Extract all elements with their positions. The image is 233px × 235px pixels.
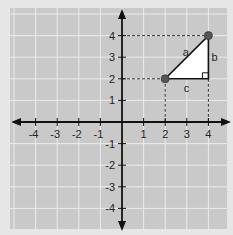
coordinate-plane-figure: -4-3-2-112344321-1-2-3-4 a b c [0,0,233,235]
grid-panel [10,8,227,229]
x-tick-label: 4 [205,128,211,140]
side-label-b: b [211,51,217,63]
y-tick-label: 2 [109,73,115,85]
y-tick-label: -4 [105,202,115,214]
y-tick-label: -1 [105,138,115,150]
x-tick-label: 3 [184,128,190,140]
point-dot [161,75,169,83]
x-tick-label: -4 [29,128,39,140]
x-tick-label: -3 [50,128,60,140]
point-dot [204,32,212,40]
y-tick-label: 4 [109,30,115,42]
side-label-a: a [183,46,190,58]
y-tick-label: -3 [105,181,115,193]
side-label-c: c [184,82,190,94]
x-tick-label: -2 [72,128,82,140]
x-tick-label: 2 [162,128,168,140]
coordinate-plane-svg: -4-3-2-112344321-1-2-3-4 a b c [0,0,233,235]
y-tick-label: -2 [105,159,115,171]
y-tick-label: 3 [109,51,115,63]
x-tick-label: 1 [141,128,147,140]
y-tick-label: 1 [109,94,115,106]
x-tick-label: -1 [94,128,104,140]
